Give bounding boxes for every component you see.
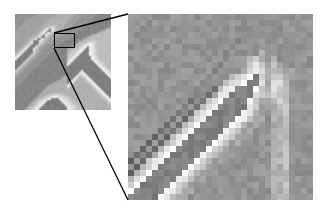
magnified-roi-canvas — [128, 14, 313, 200]
figure-container — [0, 0, 321, 214]
magnified-roi-panel[interactable] — [128, 14, 313, 200]
overview-image-panel[interactable] — [15, 14, 111, 110]
roi-rectangle[interactable] — [54, 33, 75, 48]
overview-image-canvas — [15, 14, 111, 110]
